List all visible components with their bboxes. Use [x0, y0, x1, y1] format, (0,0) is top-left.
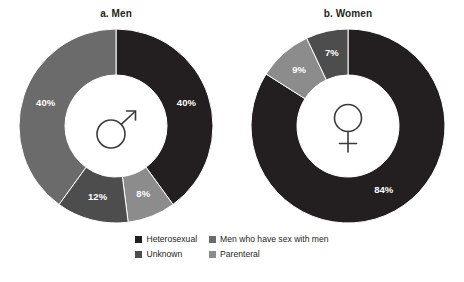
panel-men-title: a. Men	[0, 8, 232, 19]
women-slice-label: 9%	[292, 64, 306, 75]
donut-men-svg: 40%8%12%40%	[16, 26, 216, 226]
female-symbol-icon	[335, 105, 362, 153]
women-slice-label: 7%	[325, 47, 339, 58]
legend-item[interactable]: Unknown	[135, 249, 197, 260]
male-symbol-icon	[97, 111, 136, 148]
panel-men: a. Men 40%8%12%40%	[0, 0, 232, 236]
legend-swatch-icon	[209, 251, 216, 258]
legend-item-label: Men who have sex with men	[220, 234, 328, 245]
legend-item[interactable]: Parenteral	[209, 249, 328, 260]
women-slice-label: 84%	[374, 184, 394, 195]
donut-women-slices	[251, 29, 445, 223]
men-slice-label: 12%	[88, 191, 108, 202]
donut-women: 84%9%7%	[248, 26, 448, 226]
figure-canvas: a. Men 40%8%12%40% b. Women	[0, 0, 464, 282]
men-slice-label: 40%	[177, 97, 197, 108]
chart-legend: HeterosexualMen who have sex with menUnk…	[0, 234, 464, 280]
legend-swatch-icon	[135, 236, 142, 243]
men-slice-label: 40%	[36, 97, 56, 108]
donut-men: 40%8%12%40%	[16, 26, 216, 226]
legend-item[interactable]: Men who have sex with men	[209, 234, 328, 245]
panel-women: b. Women 84%9%7%	[232, 0, 464, 236]
panel-women-title: b. Women	[232, 8, 464, 19]
legend-swatch-icon	[209, 236, 216, 243]
donut-panels: a. Men 40%8%12%40% b. Women	[0, 0, 464, 236]
legend-swatch-icon	[135, 251, 142, 258]
legend-item-label: Heterosexual	[146, 234, 197, 245]
legend-item-label: Unknown	[146, 249, 182, 260]
legend-grid: HeterosexualMen who have sex with menUnk…	[135, 234, 328, 280]
legend-item-label: Parenteral	[220, 249, 260, 260]
men-slice-label: 8%	[136, 188, 150, 199]
donut-women-svg: 84%9%7%	[248, 26, 448, 226]
donut-men-slices	[19, 29, 213, 223]
legend-item[interactable]: Heterosexual	[135, 234, 197, 245]
